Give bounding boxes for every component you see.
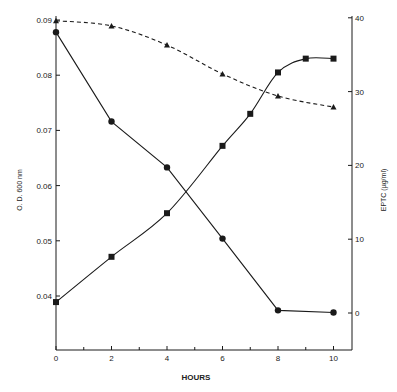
x-axis-title: HOURS	[182, 373, 212, 382]
y2-tick-label: 0	[355, 309, 360, 318]
data-point-circle	[219, 235, 225, 241]
y2-tick-label: 20	[355, 161, 364, 170]
data-point-square	[164, 210, 170, 216]
data-point-triangle	[109, 23, 115, 29]
x-tick-label: 2	[109, 354, 114, 363]
y-axis-title: O. D. 600 nm	[16, 169, 23, 211]
data-point-square	[275, 69, 281, 75]
data-point-square	[220, 143, 226, 149]
chart: 02468100.040.050.060.070.080.09010203040…	[0, 0, 397, 392]
data-point-square	[109, 254, 115, 260]
data-point-square	[303, 56, 309, 62]
x-tick-label: 4	[165, 354, 170, 363]
data-point-circle	[164, 164, 170, 170]
x-tick-label: 10	[329, 354, 338, 363]
data-point-square	[53, 299, 59, 305]
data-point-triangle	[331, 104, 337, 110]
y-tick-label: 0.05	[36, 237, 52, 246]
y-tick-label: 0.07	[36, 126, 52, 135]
data-point-circle	[275, 307, 281, 313]
y-tick-label: 0.04	[36, 292, 52, 301]
data-point-circle	[330, 309, 336, 315]
series-line-2	[56, 21, 334, 107]
data-point-square	[247, 111, 253, 117]
y2-tick-label: 40	[355, 14, 364, 23]
y2-axis-title: EPTC (µg/ml)	[380, 169, 388, 212]
x-tick-label: 6	[220, 354, 225, 363]
data-point-circle	[53, 29, 59, 35]
data-point-square	[331, 56, 337, 62]
series-line-0	[56, 32, 334, 312]
y-tick-label: 0.06	[36, 182, 52, 191]
y2-tick-label: 10	[355, 235, 364, 244]
y-tick-label: 0.09	[36, 16, 52, 25]
data-point-circle	[108, 118, 114, 124]
data-point-triangle	[164, 42, 170, 48]
series-layer	[53, 18, 337, 316]
x-tick-label: 0	[54, 354, 59, 363]
x-tick-label: 8	[276, 354, 281, 363]
y-tick-label: 0.08	[36, 71, 52, 80]
y2-tick-label: 30	[355, 88, 364, 97]
series-line-1	[56, 58, 334, 302]
data-point-triangle	[220, 71, 226, 77]
axes: 02468100.040.050.060.070.080.09010203040	[36, 14, 364, 363]
